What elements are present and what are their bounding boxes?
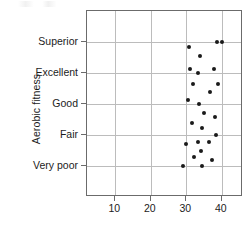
- data-point: [196, 140, 200, 144]
- x-tick-mark: [150, 196, 151, 201]
- y-tick-label-good: Good: [52, 98, 78, 109]
- gridline-horizontal: [87, 104, 241, 105]
- gridline-horizontal: [87, 73, 241, 74]
- data-point: [184, 142, 188, 146]
- data-point: [181, 164, 185, 168]
- data-point: [200, 126, 204, 130]
- scatter-plot-figure: Aerobic fitness SuperiorExcellentGoodFai…: [0, 0, 249, 226]
- data-point: [207, 140, 211, 144]
- data-point: [196, 71, 200, 75]
- data-point: [202, 111, 206, 115]
- plot-area: [86, 10, 242, 196]
- x-tick-mark: [185, 196, 186, 201]
- gridline-vertical: [222, 11, 223, 195]
- data-point: [216, 82, 220, 86]
- data-point: [215, 40, 219, 44]
- data-point: [208, 90, 212, 94]
- data-point: [192, 155, 196, 159]
- data-point: [212, 67, 216, 71]
- data-point: [220, 40, 224, 44]
- gridline-vertical: [151, 11, 152, 195]
- y-tick-label-superior: Superior: [38, 36, 78, 47]
- data-point: [198, 54, 202, 58]
- data-point: [199, 149, 203, 153]
- data-point: [210, 158, 214, 162]
- data-point: [190, 121, 194, 125]
- gridline-vertical: [115, 11, 116, 195]
- x-tick-label-40: 40: [206, 203, 236, 214]
- gridline-horizontal: [87, 166, 241, 167]
- x-tick-label-10: 10: [99, 203, 129, 214]
- data-point: [197, 102, 201, 106]
- y-tick-label-fair: Fair: [60, 129, 78, 140]
- x-tick-mark: [114, 196, 115, 201]
- scan-artifact: [18, 1, 60, 7]
- x-tick-label-20: 20: [135, 203, 165, 214]
- data-point: [200, 164, 204, 168]
- data-point: [213, 115, 217, 119]
- data-point: [186, 98, 190, 102]
- data-point: [187, 45, 191, 49]
- y-tick-label-excellent: Excellent: [35, 67, 78, 78]
- gridline-vertical: [186, 11, 187, 195]
- x-tick-label-30: 30: [170, 203, 200, 214]
- data-point: [188, 67, 192, 71]
- data-point: [214, 133, 218, 137]
- data-point: [191, 82, 195, 86]
- y-tick-label-very-poor: Very poor: [33, 160, 78, 171]
- x-tick-mark: [221, 196, 222, 201]
- plot-canvas: [87, 11, 241, 195]
